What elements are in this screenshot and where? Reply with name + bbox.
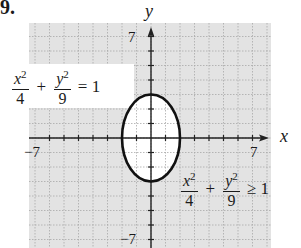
- exponent: 2: [232, 170, 238, 182]
- fraction-y2-over-9: y2 9: [223, 168, 240, 209]
- plus-sign: +: [206, 179, 216, 199]
- y-axis-label: y: [145, 2, 153, 20]
- shaded-region: [29, 23, 271, 248]
- fraction-x2-over-4: x2 4: [181, 168, 198, 209]
- inequality-graph-figure: 9. y x 7 −7 7 −7 x2 4 + y2 9 = 1 x2 4 + …: [0, 0, 301, 248]
- coordinate-plane: [0, 0, 301, 248]
- denominator-9: 9: [228, 193, 236, 209]
- exponent: 2: [190, 170, 196, 182]
- fraction-x2-over-4: x2 4: [12, 66, 29, 107]
- denominator-4: 4: [16, 91, 24, 107]
- equals-one: = 1: [78, 77, 100, 97]
- denominator-9: 9: [59, 91, 67, 107]
- problem-number: 9.: [0, 0, 15, 19]
- exponent: 2: [21, 68, 27, 80]
- x-max-tick-label: 7: [250, 145, 258, 160]
- x-axis-label: x: [280, 127, 288, 145]
- y-max-tick-label: 7: [128, 30, 136, 45]
- denominator-4: 4: [185, 193, 193, 209]
- y-min-tick-label: −7: [120, 232, 136, 247]
- plus-sign: +: [37, 77, 47, 97]
- fraction-y2-over-9: y2 9: [54, 66, 71, 107]
- inequality-equation: x2 4 + y2 9 ≥ 1: [179, 168, 275, 209]
- x-min-tick-label: −7: [24, 145, 40, 160]
- exponent: 2: [63, 68, 69, 80]
- greater-equal-one: ≥ 1: [247, 179, 269, 199]
- boundary-equation: x2 4 + y2 9 = 1: [8, 66, 108, 107]
